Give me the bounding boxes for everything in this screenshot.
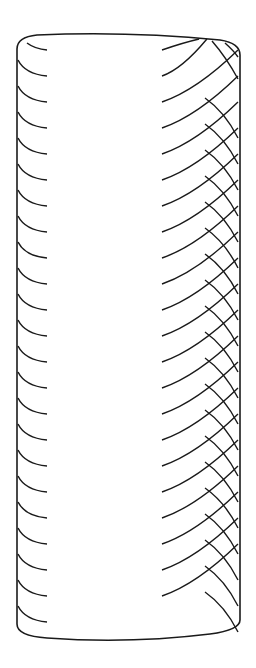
- left-arc: [18, 86, 47, 102]
- left-arc: [18, 320, 47, 336]
- left-arc: [18, 268, 47, 284]
- front-helix-line: [162, 50, 238, 102]
- left-arc: [18, 398, 47, 414]
- left-arc: [18, 502, 47, 518]
- left-helix-arcs: [18, 43, 47, 622]
- left-arc: [18, 164, 47, 180]
- cylinder-drawing: [0, 0, 256, 668]
- left-arc: [18, 580, 47, 596]
- front-helix-line: [162, 39, 199, 50]
- left-arc: [18, 528, 47, 544]
- left-arc: [18, 554, 47, 570]
- left-arc: [18, 138, 47, 154]
- left-arc: [18, 112, 47, 128]
- left-arc: [27, 43, 47, 50]
- left-arc: [18, 606, 47, 622]
- right-helix-crosshatch: [162, 39, 238, 632]
- front-helix-line: [162, 39, 207, 76]
- left-arc: [18, 372, 47, 388]
- left-arc: [18, 60, 47, 76]
- left-arc: [18, 190, 47, 206]
- left-arc: [18, 476, 47, 492]
- left-arc: [18, 424, 47, 440]
- bottom-rim: [17, 620, 240, 640]
- left-arc: [18, 294, 47, 310]
- left-arc: [18, 346, 47, 362]
- left-arc: [18, 216, 47, 232]
- cylinder-diagram: [0, 0, 256, 668]
- top-rim: [17, 34, 240, 55]
- left-arc: [18, 242, 47, 258]
- back-helix-line: [212, 41, 238, 79]
- left-arc: [18, 450, 47, 466]
